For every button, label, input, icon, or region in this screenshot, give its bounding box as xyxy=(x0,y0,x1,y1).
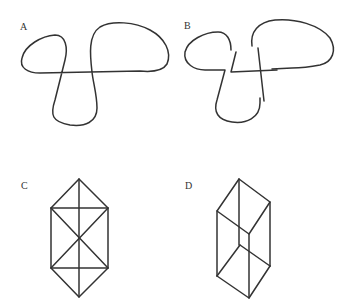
knot-figure-b xyxy=(185,20,334,123)
hexagon-figure-c xyxy=(51,179,108,297)
prism-figure-d xyxy=(217,179,270,298)
diagram-canvas xyxy=(0,0,355,306)
knot-figure-a xyxy=(21,23,168,126)
